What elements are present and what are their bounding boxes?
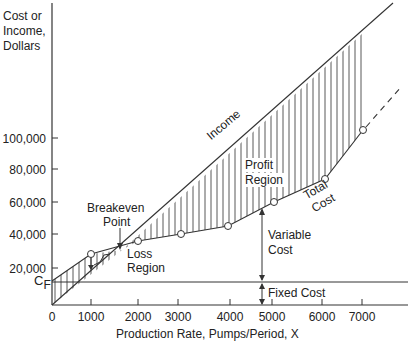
y-axis-label-line1: Cost or: [3, 9, 42, 23]
loss-region-label-line2: Region: [127, 261, 165, 275]
y-axis-label-line2: Income,: [3, 24, 46, 38]
x-tick-label: 4000: [210, 311, 250, 323]
x-tick-label: 1000: [71, 311, 111, 323]
profit-region-label-line1: Profit: [244, 158, 274, 172]
x-tick-label: 0: [32, 311, 72, 323]
fixed-cost-arrowhead-up-icon: [259, 283, 265, 289]
y-tick-label: 80,000: [0, 164, 46, 176]
cf-label: CF: [34, 274, 51, 292]
x-tick-label: 2000: [118, 311, 158, 323]
total-cost-dashed-extension: [366, 86, 402, 127]
y-tick-label: 100,000: [0, 133, 46, 145]
profit-region-label-line2: Region: [244, 173, 284, 187]
variable-cost-label-line1: Variable: [268, 228, 311, 242]
loss-region-label-line1: Loss: [127, 247, 152, 261]
y-ticks: [52, 138, 58, 268]
breakeven-label-line2: Point: [103, 215, 130, 229]
cf-label-main: C: [34, 273, 43, 288]
breakeven-chart: [0, 0, 411, 344]
x-tick-label: 3000: [158, 311, 198, 323]
variable-cost-arrowhead-down-icon: [259, 275, 265, 281]
y-axis-label-line3: Dollars: [3, 39, 40, 53]
y-tick-label: 60,000: [0, 197, 46, 209]
fixed-cost-arrowhead-down-icon: [259, 299, 265, 305]
x-tick-label: 7000: [342, 311, 382, 323]
x-axis-label: Production Rate, Pumps/Period, X: [116, 327, 299, 341]
fixed-cost-label: Fixed Cost: [268, 286, 325, 300]
x-tick-label: 5000: [252, 311, 292, 323]
cf-label-sub: F: [43, 278, 50, 292]
variable-cost-label-line2: Cost: [268, 243, 293, 257]
y-tick-label: 40,000: [0, 229, 46, 241]
x-tick-label: 6000: [302, 311, 342, 323]
profit-region-hatch: [120, 0, 365, 260]
breakeven-label-line1: Breakeven: [87, 201, 144, 215]
